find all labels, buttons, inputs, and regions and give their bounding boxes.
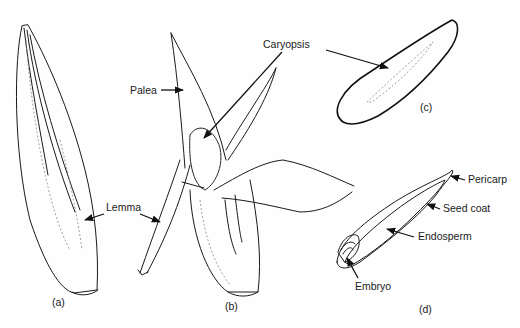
label-pericarp: Pericarp <box>468 173 507 185</box>
panel-d-caption: (d) <box>419 303 432 315</box>
pericarp-arrow <box>451 176 465 180</box>
label-endosperm: Endosperm <box>418 230 472 242</box>
caryopsis-arrow-b <box>204 52 282 138</box>
panel-b-spikelet-drawing <box>138 33 354 296</box>
panel-d-section-drawing <box>337 170 453 268</box>
panel-b-caption: (b) <box>225 300 238 312</box>
grain-anatomy-diagram: (a) (b) Palea Lemma Caryopsis <box>0 0 520 328</box>
label-caryopsis: Caryopsis <box>263 38 310 50</box>
label-palea: Palea <box>130 84 157 96</box>
embryo-arrow <box>347 258 358 278</box>
panel-a-lemma-drawing <box>16 25 98 295</box>
seed-coat-arrow <box>427 204 440 209</box>
panel-a-caption: (a) <box>52 296 65 308</box>
label-lemma: Lemma <box>106 201 141 213</box>
lemma-arrow-b <box>140 214 160 222</box>
panel-c-grain-drawing <box>337 20 457 124</box>
label-embryo: Embryo <box>355 280 391 292</box>
panel-c-caption: (c) <box>420 101 432 113</box>
label-seed-coat: Seed coat <box>443 202 490 214</box>
